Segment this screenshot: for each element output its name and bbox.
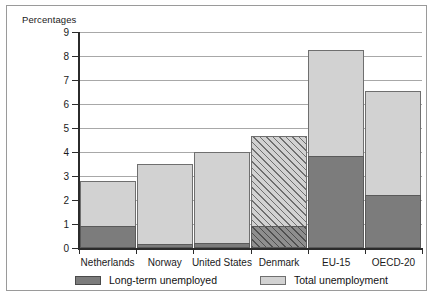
x-axis-tick-label: Denmark [259,257,300,268]
x-axis-tick-mark [308,249,309,254]
y-axis-tick-mark [72,56,79,57]
bar-long-term-unemployed [251,226,307,248]
legend-item-long-term-unemployed: Long-term unemployed [75,274,217,286]
x-axis-tick-label: EU-15 [322,257,350,268]
y-axis-tick-label: 4 [21,147,69,158]
y-axis-tick-label: 6 [21,99,69,110]
y-axis-tick-labels: 9876543210 [11,6,69,301]
legend-label-long-term: Long-term unemployed [109,274,217,286]
chart-legend: Long-term unemployed Total unemployment [13,274,434,296]
chart-frame: Percentages 9876543210 Long-term unemplo… [6,5,427,291]
y-axis-tick-label: 2 [21,195,69,206]
y-axis-tick-label: 0 [21,243,69,254]
y-axis-tick-mark [72,224,79,225]
y-axis-tick-label: 8 [21,51,69,62]
y-axis-tick-label: 5 [21,123,69,134]
legend-label-total: Total unemployment [294,274,388,286]
x-axis-tick-mark [79,249,80,254]
x-axis-tick-mark [136,249,137,254]
y-axis-tick-mark [72,176,79,177]
x-axis-tick-mark [422,249,423,254]
gridline [79,80,422,81]
y-axis-tick-mark [72,32,79,33]
x-axis-tick-label: Netherlands [81,257,135,268]
y-axis-tick-label: 9 [21,27,69,38]
x-axis-tick-label: Norway [148,257,182,268]
x-axis-tick-label: United States [192,257,252,268]
legend-swatch-long-term-icon [75,276,101,285]
bar-long-term-unemployed [365,195,421,248]
gridline [79,56,422,57]
bar-long-term-unemployed [137,244,193,248]
gridline [79,32,422,33]
y-axis-tick-mark [72,152,79,153]
x-axis-tick-mark [365,249,366,254]
y-axis-tick-mark [72,104,79,105]
bar-long-term-unemployed [80,226,136,248]
bar-long-term-unemployed [194,243,250,248]
y-axis-tick-mark [72,128,79,129]
y-axis-tick-mark [72,248,79,249]
bar-long-term-unemployed [308,156,364,248]
legend-swatch-total-icon [260,276,286,285]
y-axis-tick-label: 3 [21,171,69,182]
x-axis-tick-mark [251,249,252,254]
x-axis-tick-label: OECD-20 [372,257,415,268]
y-axis-tick-mark [72,200,79,201]
y-axis-tick-mark [72,80,79,81]
legend-item-total-unemployment: Total unemployment [260,274,388,286]
y-axis-tick-label: 1 [21,219,69,230]
y-axis-tick-label: 7 [21,75,69,86]
bar-total-unemployment [137,164,193,248]
bar-total-unemployment [194,152,250,248]
x-axis-tick-mark [193,249,194,254]
